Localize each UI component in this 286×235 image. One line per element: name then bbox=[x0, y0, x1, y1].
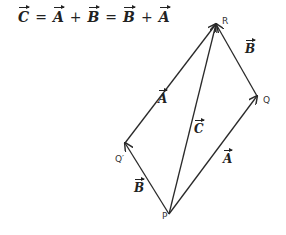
vector-b-pq-prime-arrow bbox=[125, 143, 169, 214]
vector-a-pq-arrow bbox=[169, 96, 257, 214]
vector-label-b-lower: B bbox=[134, 181, 144, 195]
vector-label-c-middle: C bbox=[194, 122, 204, 136]
vector-label-b-right: B bbox=[245, 42, 255, 56]
point-label-q-prime: Q′ bbox=[115, 154, 124, 164]
vector-b-qr-arrow bbox=[216, 24, 257, 96]
point-label-q: Q bbox=[263, 95, 270, 105]
point-label-p: P bbox=[162, 211, 167, 221]
point-label-r: R bbox=[222, 16, 228, 26]
vector-label-a-lower: A bbox=[223, 152, 232, 166]
parallelogram-diagram bbox=[0, 0, 286, 235]
vector-label-a-upper: A bbox=[158, 92, 167, 106]
vector-c-pr-arrow bbox=[169, 24, 216, 214]
